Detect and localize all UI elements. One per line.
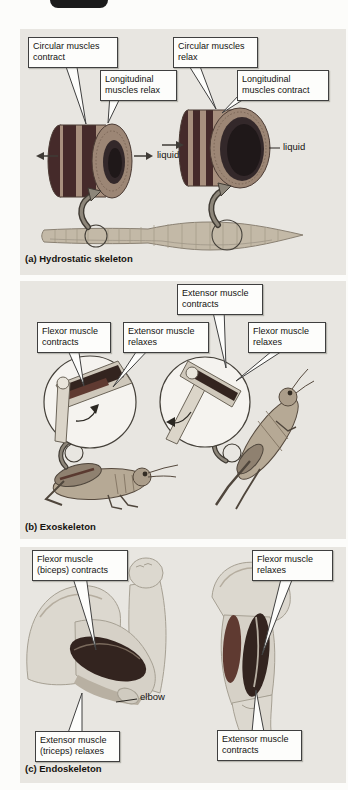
liquid-label-right: liquid [283, 141, 305, 152]
panel-exoskeleton: Extensor muscle contracts Flexor muscle … [20, 281, 346, 539]
callout-extensor-contracts: Extensor muscle contracts [217, 730, 302, 761]
callout-flexor-contracts: Flexor muscle contracts [37, 322, 111, 353]
liquid-label-left: liquid [157, 149, 179, 160]
joint-knob [57, 377, 69, 389]
cylinder-hole-inner [227, 124, 261, 176]
caption-endoskeleton: (c) Endoskeleton [25, 763, 102, 774]
grasshopper-eye [288, 391, 293, 396]
callout-longitudinal-contract: Longitudinal muscles contract [237, 70, 329, 101]
hind-leg-extended [216, 461, 250, 505]
grasshopper-eye [143, 472, 148, 477]
caption-hydrostatic-skeleton: (a) Hydrostatic skeleton [25, 253, 133, 264]
circular-muscle-band [63, 125, 76, 197]
callout-circular-contract: Circular muscles contract [28, 37, 118, 68]
circular-muscle-band [193, 110, 200, 186]
antennae [148, 465, 178, 477]
zoom-arrow-right [211, 183, 231, 225]
elbow-label: elbow [140, 691, 165, 702]
caption-exoskeleton: (b) Exoskeleton [25, 521, 96, 532]
inset-flexed-joint [44, 356, 136, 448]
leader-circular-relax [186, 61, 216, 109]
callout-flexor-relaxes: Flexor muscle relaxes [248, 322, 326, 353]
antennae [292, 369, 314, 393]
panel-endoskeleton: Flexor muscle (biceps) contracts Flexor … [20, 547, 346, 783]
grasshopper-crouched [46, 444, 178, 509]
figure-page: Circular muscles contract Longitudinal m… [0, 0, 348, 790]
top-cropped-button[interactable] [50, 0, 108, 8]
callout-extensor-triceps-relaxes: Extensor muscle (triceps) relaxes [35, 731, 120, 762]
grasshopper-head [279, 388, 297, 406]
arrow-right-head-icon [146, 152, 153, 160]
fist [129, 558, 163, 588]
callout-longitudinal-relax: Longitudinal muscles relax [100, 70, 177, 101]
callout-extensor-contracts: Extensor muscle contracts [177, 284, 263, 315]
inset-extended-joint [160, 357, 250, 447]
joint-knob [186, 367, 198, 379]
cylinder-hole-inner [108, 148, 122, 178]
callout-flexor-relaxes: Flexor muscle relaxes [252, 550, 333, 581]
leader-extensor-triceps-relaxes [68, 693, 82, 733]
exoskeleton-illustration [20, 281, 346, 539]
contracted-segment-cylinder [48, 124, 132, 198]
leader-circular-contract [64, 61, 86, 124]
panel-hydrostatic-skeleton: Circular muscles contract Longitudinal m… [20, 29, 346, 275]
arrow-left-head-icon [36, 152, 44, 160]
callout-circular-relax: Circular muscles relax [173, 37, 258, 68]
callout-flexor-biceps-contracts: Flexor muscle (biceps) contracts [32, 550, 128, 581]
callout-extensor-relaxes: Extensor muscle relaxes [123, 322, 209, 353]
relaxed-segment-cylinder [179, 108, 270, 188]
worm-body [42, 222, 303, 250]
worm-illustration [42, 220, 303, 250]
